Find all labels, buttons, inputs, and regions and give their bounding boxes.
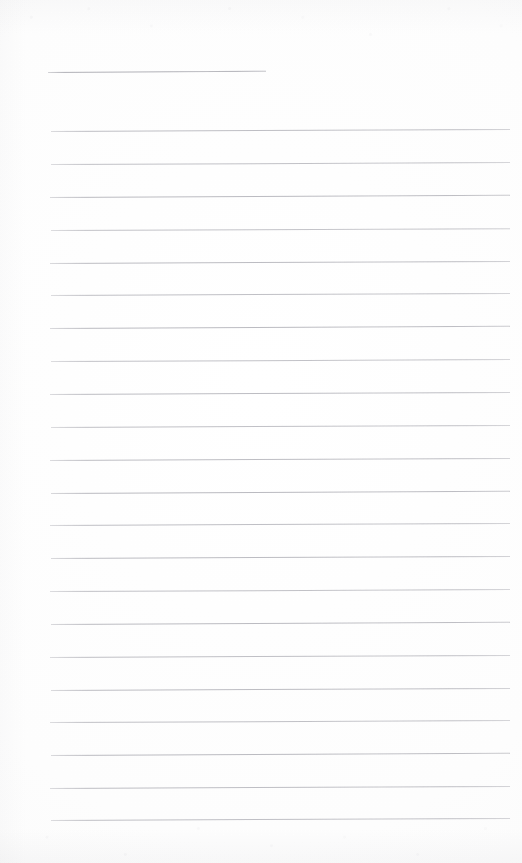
notepad-page bbox=[0, 0, 522, 863]
